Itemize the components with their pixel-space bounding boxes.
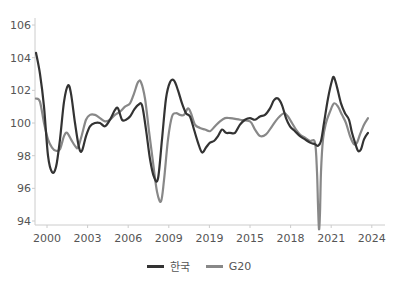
legend-swatch-korea [147,265,164,268]
series-lines [36,53,368,230]
y-tick-label: 96 [17,182,31,195]
x-tick-label: 2019 [195,232,223,245]
axes: 9496981001021041062000200320062009201920… [10,18,386,245]
legend-label-g20: G20 [229,260,252,273]
y-tick-label: 106 [10,19,31,32]
x-tick-label: 2000 [33,232,61,245]
y-tick-label: 102 [10,84,31,97]
x-tick-label: 2021 [317,232,345,245]
y-tick-label: 98 [17,150,31,163]
x-tick-label: 2006 [114,232,142,245]
x-tick-label: 2009 [155,232,183,245]
legend-swatch-g20 [206,265,223,268]
legend-item-korea: 한국 [147,258,190,274]
y-tick-label: 94 [17,215,31,228]
legend: 한국 G20 [0,258,398,274]
x-tick-label: 2003 [74,232,102,245]
series-line-korea [36,53,368,182]
legend-item-g20: G20 [206,260,252,273]
chart-container: 9496981001021041062000200320062009201920… [0,0,398,287]
x-tick-label: 2015 [236,232,264,245]
y-tick-label: 104 [10,52,31,65]
x-tick-label: 2024 [358,232,386,245]
y-tick-label: 100 [10,117,31,130]
legend-label-korea: 한국 [170,258,190,274]
x-tick-label: 2018 [277,232,305,245]
line-chart: 9496981001021041062000200320062009201920… [0,0,398,287]
series-line-g20 [36,80,368,229]
